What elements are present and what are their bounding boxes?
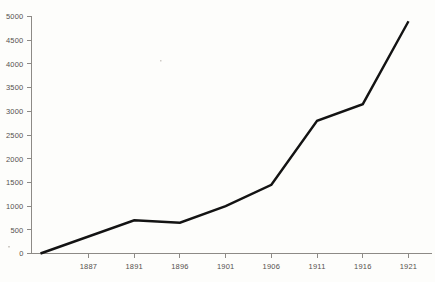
x-axis-tick-marks: [89, 254, 409, 259]
y-axis-tick-label: 500: [10, 226, 23, 235]
y-axis-tick-label: 1000: [6, 202, 24, 211]
y-axis-tick-label: 0: [19, 249, 23, 258]
x-axis-tick-label: 1916: [354, 262, 372, 271]
chart-canvas: 0500100015002000250030003500400045005000…: [0, 0, 435, 282]
y-axis-tick-label: 2000: [6, 155, 24, 164]
y-axis-tick-labels: 0500100015002000250030003500400045005000: [6, 12, 24, 258]
y-axis-tick-label: 4000: [6, 60, 24, 69]
x-axis-tick-label: 1896: [171, 262, 189, 271]
data-series-line: [41, 21, 409, 253]
x-axis-tick-label: 1901: [217, 262, 235, 271]
artifact-speck: [160, 60, 162, 62]
x-axis-tick-label: 1911: [309, 262, 326, 271]
x-axis-tick-label: 1906: [263, 262, 281, 271]
y-axis-tick-label: 3000: [6, 107, 24, 116]
line-chart: 0500100015002000250030003500400045005000…: [0, 0, 435, 282]
y-axis-tick-label: 4500: [6, 36, 24, 45]
x-axis-tick-label: 1891: [125, 262, 143, 271]
x-axis-tick-label: 1887: [80, 262, 98, 271]
y-axis-tick-marks: [27, 17, 32, 254]
y-axis-tick-label: 1500: [6, 178, 24, 187]
x-axis-tick-labels: 18871891189619011906191119161921: [80, 262, 418, 271]
y-axis-tick-label: 5000: [6, 12, 24, 21]
artifact-speck: [8, 246, 10, 248]
y-axis-tick-label: 2500: [6, 131, 24, 140]
x-axis-tick-label: 1921: [400, 262, 418, 271]
y-axis-tick-label: 3500: [6, 83, 24, 92]
